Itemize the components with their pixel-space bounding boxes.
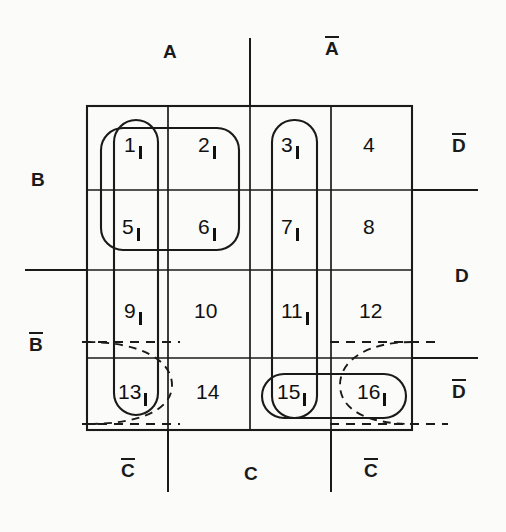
label-right-D-not-top: D — [452, 133, 466, 155]
label-left-B-glyph: B — [31, 170, 45, 189]
cell-number: 10 — [194, 300, 217, 321]
cell-number: 1 — [124, 134, 136, 155]
cell-number: 11 — [281, 300, 303, 321]
grid-column-lines — [168, 106, 331, 430]
cell-number: 14 — [196, 381, 219, 402]
cell-value-one — [303, 393, 306, 406]
label-bottom-C-mid-glyph: C — [244, 464, 258, 483]
cell-value-one — [296, 146, 299, 159]
kmap-cell-6: 6 — [198, 216, 216, 237]
cell-number: 16 — [357, 381, 380, 402]
label-top-A: A — [163, 42, 177, 61]
kmap-cell-11: 11 — [281, 300, 309, 321]
kmap-cell-3: 3 — [281, 134, 299, 155]
cell-number: 6 — [198, 216, 210, 237]
kmap-cell-8: 8 — [363, 216, 375, 237]
label-right-D-not-top-glyph: D — [452, 136, 466, 155]
label-left-B: B — [31, 170, 45, 189]
kmap-cell-4: 4 — [363, 134, 375, 155]
cell-value-one — [306, 312, 309, 325]
cell-value-one — [139, 146, 142, 159]
kmap-cell-5: 5 — [122, 216, 140, 237]
label-bottom-C-not-left: C — [121, 458, 135, 480]
cell-value-one — [296, 228, 299, 241]
cell-number: 13 — [118, 381, 141, 402]
label-right-D-glyph: D — [455, 266, 469, 285]
cell-number: 4 — [363, 134, 375, 155]
kmap-cell-7: 7 — [281, 216, 299, 237]
kmap-cell-1: 1 — [124, 134, 142, 155]
cell-value-one — [137, 228, 140, 241]
kmap-cell-16: 16 — [357, 381, 386, 402]
group-1-5-9-13 — [114, 120, 158, 415]
cell-number: 3 — [281, 134, 293, 155]
cell-number: 7 — [281, 216, 293, 237]
kmap-cell-15: 15 — [277, 381, 306, 402]
cell-number: 9 — [124, 300, 136, 321]
cell-value-one — [383, 393, 386, 406]
kmap-cell-10: 10 — [194, 300, 217, 321]
kmap-cell-14: 14 — [196, 381, 219, 402]
kmap-cell-12: 12 — [359, 300, 382, 321]
kmap-drawing — [0, 0, 506, 532]
cell-number: 8 — [363, 216, 375, 237]
cell-value-one — [213, 228, 216, 241]
label-left-B-not-glyph: B — [29, 335, 43, 354]
kmap-cell-2: 2 — [198, 134, 216, 155]
karnaugh-map-figure: A A C C C B B D D D 1 2 3 — [0, 0, 506, 532]
label-right-D-not-bottom-glyph: D — [452, 382, 466, 401]
cell-number: 2 — [198, 134, 210, 155]
cell-number: 15 — [277, 381, 300, 402]
kmap-cell-9: 9 — [124, 300, 142, 321]
cell-number: 12 — [359, 300, 382, 321]
label-top-A-not: A — [325, 36, 339, 58]
label-bottom-C-mid: C — [244, 464, 258, 483]
label-bottom-C-not-right: C — [364, 458, 378, 480]
label-right-D: D — [455, 266, 469, 285]
cell-number: 5 — [122, 216, 134, 237]
label-left-B-not: B — [29, 332, 43, 354]
cell-value-one — [144, 393, 147, 406]
label-bottom-C-not-right-glyph: C — [364, 461, 378, 480]
label-bottom-C-not-left-glyph: C — [121, 461, 135, 480]
label-top-A-glyph: A — [163, 42, 177, 61]
cell-value-one — [139, 312, 142, 325]
label-top-A-not-glyph: A — [325, 39, 339, 58]
kmap-cell-13: 13 — [118, 381, 147, 402]
cell-value-one — [213, 146, 216, 159]
label-right-D-not-bottom: D — [452, 379, 466, 401]
